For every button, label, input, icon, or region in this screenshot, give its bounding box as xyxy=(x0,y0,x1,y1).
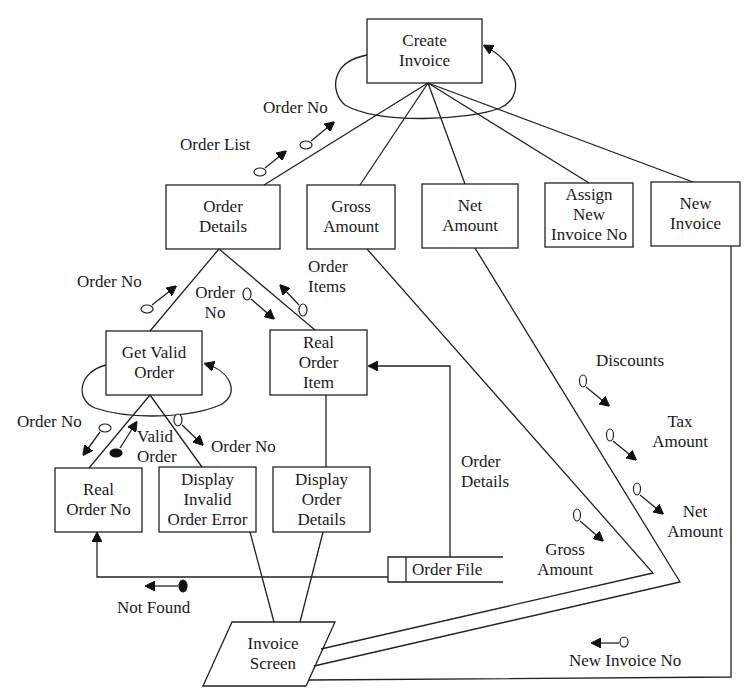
data-store-order-file: Order File xyxy=(412,560,482,580)
couple-label-tax-amount: Tax Amount xyxy=(640,412,720,452)
couple-label-valid-order: Valid Order xyxy=(137,427,177,467)
couple-label-order-no-gvo-right: Order No xyxy=(211,437,276,457)
module-new-invoice: New Invoice xyxy=(651,182,740,246)
module-get-valid-order: Get Valid Order xyxy=(106,331,202,395)
couple-label-order-no-mid: Order No xyxy=(190,283,240,323)
module-display-invalid-order-error: Display Invalid Order Error xyxy=(159,467,256,532)
couple-label-discounts: Discounts xyxy=(596,351,664,371)
couple-label-order-items: Order Items xyxy=(308,257,348,297)
structure-chart-diagram: Create Invoice Order Details Gross Amoun… xyxy=(0,0,750,694)
module-real-order-no: Real Order No xyxy=(55,468,142,532)
couple-label-order-no-gvo-left: Order No xyxy=(17,412,82,432)
module-net-amount: Net Amount xyxy=(422,184,518,248)
couple-label-order-no-left: Order No xyxy=(77,272,142,292)
module-display-order-details: Display Order Details xyxy=(273,467,370,532)
module-gross-amount: Gross Amount xyxy=(307,185,395,249)
couple-label-order-details: Order Details xyxy=(461,452,509,492)
couple-label-not-found: Not Found xyxy=(117,598,190,618)
screen-invoice-screen: Invoice Screen xyxy=(222,622,324,686)
module-real-order-item: Real Order Item xyxy=(270,330,367,395)
module-order-details: Order Details xyxy=(166,185,280,249)
couple-label-order-list: Order List xyxy=(180,135,250,155)
couple-label-net-amount: Net Amount xyxy=(655,502,735,542)
couple-label-new-invoice-no: New Invoice No xyxy=(569,651,681,671)
couple-label-order-no-top: Order No xyxy=(263,98,328,118)
module-assign-new-invoice-no: Assign New Invoice No xyxy=(545,183,633,247)
module-create-invoice: Create Invoice xyxy=(367,19,482,83)
couple-label-gross-amount: Gross Amount xyxy=(525,540,605,580)
